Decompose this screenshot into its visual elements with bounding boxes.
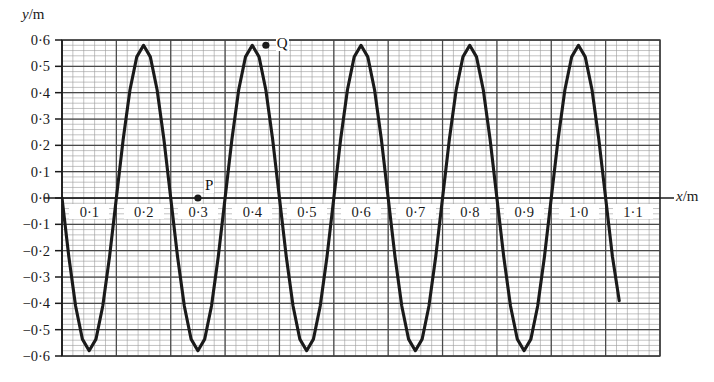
y-axis-title-symbol: y bbox=[22, 6, 29, 22]
y-tick-label: 0·0 bbox=[4, 191, 50, 205]
x-tick-label: 1·1 bbox=[613, 204, 653, 219]
y-axis-title-unit: /m bbox=[29, 6, 45, 22]
y-tick-label: 0·3 bbox=[4, 112, 50, 126]
x-axis-title: x/m bbox=[676, 188, 699, 205]
x-tick-label: 1·0 bbox=[559, 204, 599, 219]
y-tick-label: 0·1 bbox=[4, 165, 50, 179]
y-tick-label: −0·5 bbox=[4, 323, 50, 337]
y-tick-label: 0·2 bbox=[4, 138, 50, 152]
y-tick-label: 0·6 bbox=[4, 33, 50, 47]
y-tick-label: −0·6 bbox=[4, 349, 50, 363]
y-tick-label: 0·5 bbox=[4, 59, 50, 73]
x-tick-label: 0·6 bbox=[341, 204, 381, 219]
x-axis-title-unit: /m bbox=[683, 188, 699, 204]
x-tick-label: 0·5 bbox=[287, 204, 327, 219]
figure-background bbox=[0, 0, 714, 382]
graph-canvas bbox=[0, 0, 714, 382]
x-tick-label: 0·4 bbox=[232, 204, 272, 219]
y-axis-title: y/m bbox=[22, 6, 45, 23]
y-tick-label: −0·3 bbox=[4, 270, 50, 284]
y-tick-label: 0·4 bbox=[4, 86, 50, 100]
x-axis-title-symbol: x bbox=[676, 188, 683, 204]
y-tick-label: −0·2 bbox=[4, 244, 50, 258]
x-tick-label: 0·3 bbox=[178, 204, 218, 219]
point-label-p: P bbox=[204, 178, 214, 193]
x-tick-label: 0·1 bbox=[69, 204, 109, 219]
y-tick-label: −0·4 bbox=[4, 296, 50, 310]
point-label-q: Q bbox=[276, 36, 289, 51]
x-tick-label: 0·9 bbox=[504, 204, 544, 219]
x-tick-label: 0·8 bbox=[450, 204, 490, 219]
y-tick-label: −0·1 bbox=[4, 217, 50, 231]
x-tick-label: 0·2 bbox=[124, 204, 164, 219]
x-tick-label: 0·7 bbox=[396, 204, 436, 219]
wave-graph-figure: y/m x/m 0·60·50·40·30·20·10·0−0·1−0·2−0·… bbox=[0, 0, 714, 382]
